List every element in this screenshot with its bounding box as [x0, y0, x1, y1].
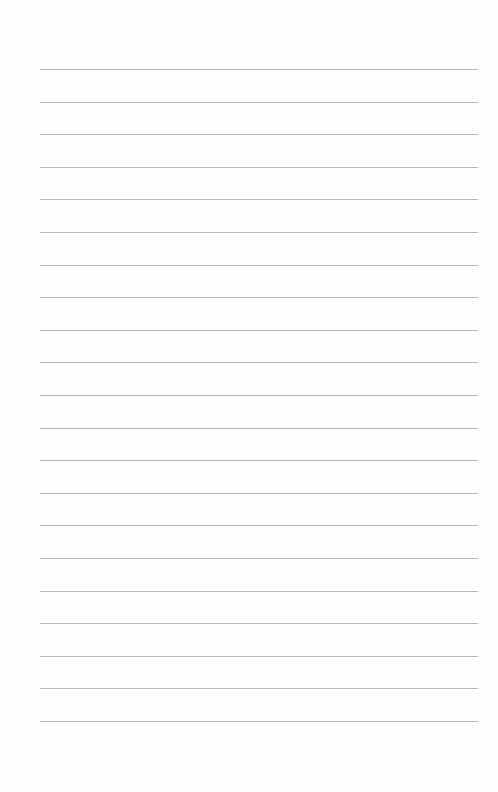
- ruled-line: [40, 199, 478, 200]
- ruled-line: [40, 558, 478, 559]
- lined-page: [0, 0, 498, 792]
- ruled-line: [40, 591, 478, 592]
- ruled-line: [40, 395, 478, 396]
- ruled-line: [40, 688, 478, 689]
- ruled-line: [40, 721, 478, 722]
- ruled-line: [40, 69, 478, 70]
- ruled-line: [40, 460, 478, 461]
- ruled-line: [40, 297, 478, 298]
- ruled-line: [40, 656, 478, 657]
- ruled-line: [40, 428, 478, 429]
- ruled-line: [40, 167, 478, 168]
- ruled-line: [40, 623, 478, 624]
- ruled-line: [40, 525, 478, 526]
- ruled-line: [40, 362, 478, 363]
- ruled-line: [40, 265, 478, 266]
- ruled-line: [40, 102, 478, 103]
- ruled-line: [40, 232, 478, 233]
- ruled-line: [40, 330, 478, 331]
- ruled-line: [40, 493, 478, 494]
- ruled-line: [40, 134, 478, 135]
